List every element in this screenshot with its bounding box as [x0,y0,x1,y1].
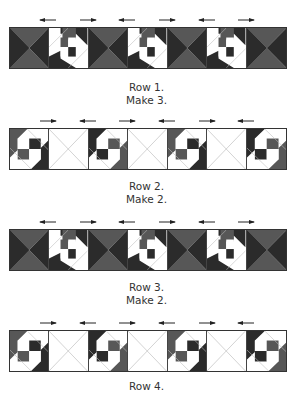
quilt-block-hourglass [168,28,207,68]
quilt-block-pinwheel-b [247,331,286,371]
pressing-arrow-left-icon [158,320,176,326]
pressing-arrow-left-icon [198,219,216,225]
quilt-block-hourglass [247,28,286,68]
quilt-block-pinwheel-b [168,331,207,371]
pressing-arrow-left-icon [39,219,57,225]
quilt-block-pinwheel-b [168,129,207,169]
quilt-row-4 [9,330,287,372]
row-1-quantity: Make 3. [0,94,293,107]
row-3-quantity: Make 2. [0,294,293,307]
pressing-arrows-row-1 [9,17,287,23]
quilt-block-hourglass [10,28,49,68]
quilt-block-pinwheel-a [128,28,167,68]
pressing-arrow-right-icon [118,118,136,124]
quilt-block-pinwheel-a [207,28,246,68]
pressing-arrows-row-2 [9,118,287,124]
pressing-arrow-right-icon [39,320,57,326]
quilt-row-1 [9,27,287,69]
pressing-arrow-left-icon [39,17,57,23]
quilt-block-pinwheel-b [247,129,286,169]
quilt-block-pinwheel-b [10,331,49,371]
row-2-quantity: Make 2. [0,193,293,206]
quilt-block-hourglass [247,230,286,270]
row-2-caption: Row 2. Make 2. [0,180,293,205]
quilt-block-plain-x [207,331,246,371]
quilt-block-plain-x [49,129,88,169]
quilt-block-pinwheel-b [89,129,128,169]
pressing-arrow-right-icon [118,320,136,326]
pressing-arrow-right-icon [198,118,216,124]
pressing-arrow-right-icon [158,17,176,23]
row-1-label: Row 1. [0,81,293,94]
quilt-row-3 [9,229,287,271]
pressing-arrow-left-icon [158,118,176,124]
quilt-block-pinwheel-a [128,230,167,270]
quilt-block-plain-x [128,331,167,371]
quilt-block-pinwheel-a [49,28,88,68]
pressing-arrow-left-icon [237,118,255,124]
pressing-arrow-right-icon [198,320,216,326]
row-3-caption: Row 3. Make 2. [0,281,293,306]
row-3-label: Row 3. [0,281,293,294]
quilt-block-hourglass [168,230,207,270]
quilt-block-pinwheel-b [10,129,49,169]
pressing-arrow-left-icon [118,17,136,23]
pressing-arrow-left-icon [79,118,97,124]
pressing-arrow-right-icon [237,17,255,23]
quilt-block-pinwheel-a [49,230,88,270]
pressing-arrow-right-icon [39,118,57,124]
pressing-arrows-row-3 [9,219,287,225]
row-4-label: Row 4. [0,380,293,393]
quilt-block-plain-x [49,331,88,371]
pressing-arrow-right-icon [79,219,97,225]
row-2-label: Row 2. [0,180,293,193]
quilt-block-hourglass [89,230,128,270]
pressing-arrow-left-icon [198,17,216,23]
pressing-arrows-row-4 [9,320,287,326]
quilt-block-pinwheel-b [89,331,128,371]
row-4-caption: Row 4. [0,380,293,393]
pressing-arrow-right-icon [158,219,176,225]
pressing-arrow-right-icon [79,17,97,23]
quilt-block-pinwheel-a [207,230,246,270]
row-1-caption: Row 1. Make 3. [0,81,293,106]
quilt-block-hourglass [10,230,49,270]
pressing-arrow-left-icon [237,320,255,326]
pressing-arrow-left-icon [118,219,136,225]
quilt-row-2 [9,128,287,170]
quilt-block-hourglass [89,28,128,68]
quilt-block-plain-x [128,129,167,169]
pressing-arrow-left-icon [79,320,97,326]
quilt-block-plain-x [207,129,246,169]
pressing-arrow-right-icon [237,219,255,225]
